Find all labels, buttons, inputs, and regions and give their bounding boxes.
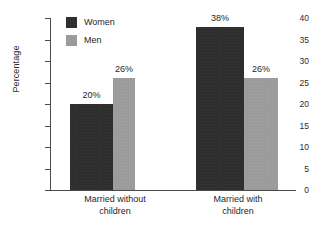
bar-men-married-with-children[interactable] bbox=[244, 78, 278, 190]
legend-item-women[interactable]: Women bbox=[66, 14, 115, 30]
bar-chart: Percentage 0 5 10 15 20 25 30 35 40 20% … bbox=[0, 0, 309, 227]
x-axis-category-married-with-children: Married with children bbox=[180, 194, 296, 217]
bar-women-married-with-children[interactable] bbox=[196, 27, 244, 190]
bar-women-married-without-children[interactable] bbox=[70, 104, 113, 190]
legend-item-men[interactable]: Men bbox=[66, 32, 115, 48]
legend-swatch-women-icon bbox=[66, 17, 77, 28]
legend-label-women: Women bbox=[84, 17, 115, 27]
x-axis-line bbox=[50, 190, 296, 191]
bar-value-women-married-without-children: 20% bbox=[70, 90, 113, 100]
bar-value-men-married-without-children: 26% bbox=[106, 64, 142, 74]
category-line-1: Married without bbox=[50, 194, 180, 206]
bar-men-married-without-children[interactable] bbox=[113, 78, 135, 190]
category-line-2: children bbox=[180, 206, 296, 218]
category-line-1: Married with bbox=[180, 194, 296, 206]
legend: Women Men bbox=[66, 14, 115, 50]
legend-label-men: Men bbox=[84, 35, 102, 45]
bar-value-men-married-with-children: 26% bbox=[244, 64, 278, 74]
y-axis-title: Percentage bbox=[11, 9, 21, 129]
x-axis-category-married-without-children: Married without children bbox=[50, 194, 180, 217]
category-line-2: children bbox=[50, 206, 180, 218]
bar-value-women-married-with-children: 38% bbox=[196, 13, 244, 23]
y-tick-0 bbox=[45, 190, 50, 191]
legend-swatch-men-icon bbox=[66, 35, 77, 46]
